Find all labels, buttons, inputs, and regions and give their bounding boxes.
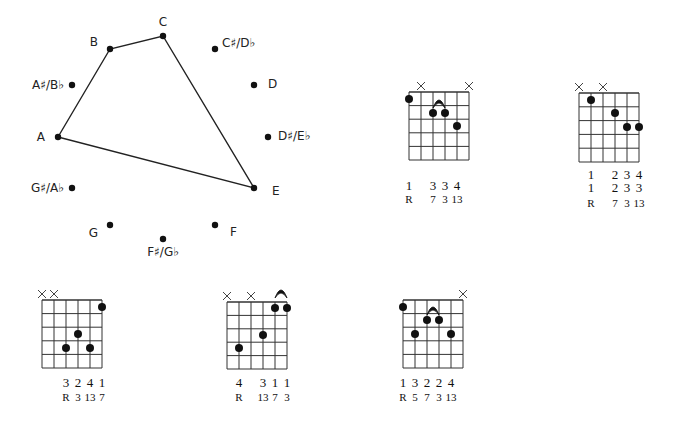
finger-dot-icon <box>441 109 449 117</box>
muted-string-x-icon <box>417 82 425 90</box>
finger-dot-icon <box>62 344 70 352</box>
finger-number: 1 <box>284 375 291 390</box>
interval-label: 3 <box>442 193 448 205</box>
interval-label: 7 <box>612 197 618 209</box>
finger-dot-icon <box>235 344 243 352</box>
muted-string-x-icon <box>50 290 58 298</box>
muted-string-x-icon <box>247 292 255 300</box>
note-dot-icon <box>160 33 166 39</box>
note-point: C <box>159 15 167 39</box>
note-dot-icon <box>212 46 218 52</box>
note-point: A <box>37 130 61 144</box>
finger-dot-icon <box>635 123 643 131</box>
interval-label: 13 <box>446 391 458 403</box>
note-point: G♯/A♭ <box>31 181 75 195</box>
note-label: C <box>159 15 167 29</box>
interval-label: 13 <box>258 391 270 403</box>
interval-label: 13 <box>85 391 97 403</box>
interval-label: R <box>62 391 70 403</box>
note-label: D♯/E♭ <box>278 129 310 143</box>
chromatic-note-circle: CC♯/D♭DD♯/E♭EFF♯/G♭GG♯/A♭AA♯/B♭B <box>31 15 310 259</box>
interval-label: 7 <box>424 391 430 403</box>
finger-number: 4 <box>236 375 243 390</box>
chord-5-diagram: 4311R1373 <box>223 290 291 403</box>
finger-dot-icon <box>447 330 455 338</box>
note-label: A♯/B♭ <box>32 78 64 92</box>
finger-number: 4 <box>87 375 94 390</box>
finger-number: 2 <box>75 375 82 390</box>
muted-string-x-icon <box>223 292 231 300</box>
chord-2-diagram: 12341233R7313 <box>575 83 645 209</box>
note-point: B <box>90 35 113 52</box>
chord-tone-polygon <box>58 36 254 188</box>
finger-number: 3 <box>412 375 419 390</box>
finger-dot-icon <box>259 331 267 339</box>
interval-label: R <box>235 391 243 403</box>
note-dot-icon <box>69 185 75 191</box>
diagram-canvas: CC♯/D♭DD♯/E♭EFF♯/G♭GG♯/A♭AA♯/B♭B 1334R73… <box>0 0 682 422</box>
finger-number: 1 <box>588 180 595 195</box>
interval-label: 13 <box>634 197 646 209</box>
interval-label: 13 <box>452 193 464 205</box>
interval-label: 3 <box>436 391 442 403</box>
interval-label: 7 <box>430 193 436 205</box>
note-point: F <box>212 222 237 239</box>
muted-string-x-icon <box>599 83 607 91</box>
chord-6-diagram: 13224R57313 <box>399 290 467 403</box>
finger-number: 3 <box>430 178 437 193</box>
note-dot-icon <box>212 222 218 228</box>
finger-number: 1 <box>400 375 407 390</box>
finger-dot-icon <box>74 330 82 338</box>
note-dot-icon <box>251 185 257 191</box>
finger-number: 3 <box>442 178 449 193</box>
interval-label: R <box>405 193 413 205</box>
finger-dot-icon <box>423 316 431 324</box>
finger-number: 3 <box>260 375 267 390</box>
barre-arch-icon <box>275 290 287 298</box>
interval-label: 5 <box>412 391 418 403</box>
note-label: A <box>37 130 46 144</box>
finger-dot-icon <box>405 95 413 103</box>
note-dot-icon <box>55 134 61 140</box>
note-dot-icon <box>69 82 75 88</box>
finger-dot-icon <box>611 109 619 117</box>
note-point: C♯/D♭ <box>212 36 255 52</box>
interval-label: 7 <box>99 391 105 403</box>
note-dot-icon <box>265 134 271 140</box>
finger-number: 3 <box>63 375 70 390</box>
finger-number: 3 <box>624 180 631 195</box>
guitar-chord-diagrams: 1334R731312341233R73133241R31374311R1373… <box>38 82 645 403</box>
finger-number: 1 <box>272 375 279 390</box>
muted-string-x-icon <box>465 82 473 90</box>
note-label: F <box>230 225 237 239</box>
finger-dot-icon <box>429 109 437 117</box>
note-point: D <box>251 77 277 91</box>
note-dot-icon <box>107 46 113 52</box>
note-dot-icon <box>107 222 113 228</box>
finger-dot-icon <box>86 344 94 352</box>
finger-number: 4 <box>448 375 455 390</box>
note-label: C♯/D♭ <box>222 36 255 50</box>
finger-dot-icon <box>271 304 279 312</box>
muted-string-x-icon <box>459 290 467 298</box>
interval-label: 3 <box>75 391 81 403</box>
finger-dot-icon <box>399 303 407 311</box>
note-label: D <box>268 77 277 91</box>
finger-dot-icon <box>98 303 106 311</box>
finger-number: 1 <box>406 178 413 193</box>
note-point: E <box>251 184 280 198</box>
interval-label: 3 <box>624 197 630 209</box>
finger-dot-icon <box>411 330 419 338</box>
finger-number: 4 <box>454 178 461 193</box>
finger-number: 3 <box>636 180 643 195</box>
note-label: G♯/A♭ <box>31 181 64 195</box>
finger-dot-icon <box>283 304 291 312</box>
note-label: G <box>89 226 98 240</box>
finger-dot-icon <box>623 123 631 131</box>
muted-string-x-icon <box>38 290 46 298</box>
interval-label: R <box>587 197 595 209</box>
finger-number: 2 <box>436 375 443 390</box>
note-dot-icon <box>160 236 166 242</box>
barre-arch-icon <box>433 100 445 108</box>
note-label: B <box>90 35 98 49</box>
